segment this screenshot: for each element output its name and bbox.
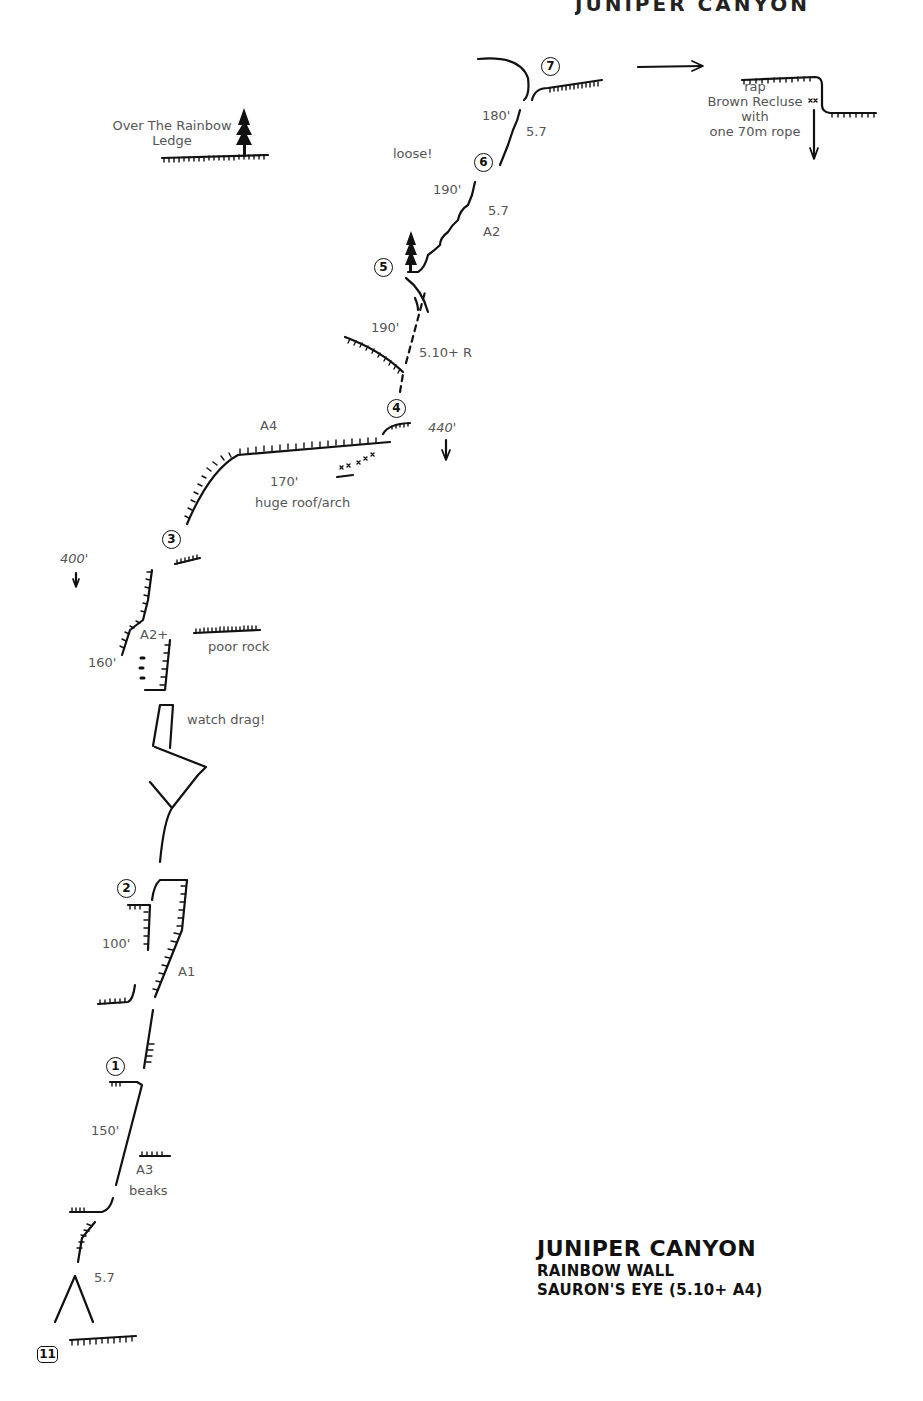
pitch2-grade: A1 bbox=[178, 964, 195, 979]
belay-station-1: 1 bbox=[106, 1057, 125, 1076]
height-400-label: 400' bbox=[60, 551, 88, 566]
pitch5-length: 190' bbox=[371, 320, 399, 335]
ledge-name-line1: Over The Rainbow bbox=[112, 118, 232, 133]
area-title: JUNIPER CANYON bbox=[537, 1236, 763, 1262]
pitch1-length: 150' bbox=[91, 1123, 119, 1138]
ledge-name-line2: Ledge bbox=[112, 133, 232, 148]
pitch1-note: beaks bbox=[129, 1183, 168, 1198]
bolt-ladder bbox=[340, 453, 374, 469]
arrow-right-icon bbox=[638, 61, 703, 71]
belay-station-5: 5 bbox=[374, 258, 393, 277]
y-crack bbox=[150, 747, 206, 862]
arrow-down-icon bbox=[442, 440, 450, 460]
pitch4-note: huge roof/arch bbox=[255, 495, 350, 510]
height-440-label: 440' bbox=[428, 420, 456, 435]
tree-icon bbox=[236, 108, 252, 157]
rappel-note-line2: Brown Recluse bbox=[700, 94, 810, 109]
pitch6-aid: A2 bbox=[483, 224, 500, 239]
arrow-down-icon bbox=[810, 110, 818, 159]
start-peak bbox=[55, 1276, 93, 1322]
pitch7-grade: 5.7 bbox=[526, 124, 547, 139]
page-number: 11 bbox=[37, 1346, 58, 1363]
rappel-note-line1: rap bbox=[700, 79, 810, 94]
pitch7-length: 180' bbox=[482, 108, 510, 123]
pitch1-grade: A3 bbox=[136, 1162, 153, 1177]
pitch3-length: 160' bbox=[88, 655, 116, 670]
pitch3-note-poor-rock: poor rock bbox=[208, 639, 269, 654]
pitch4-length: 170' bbox=[270, 474, 298, 489]
pitch6-grade: 5.7 bbox=[488, 203, 509, 218]
belay-station-6: 6 bbox=[474, 153, 493, 172]
route-title: SAURON'S EYE (5.10+ A4) bbox=[537, 1281, 763, 1300]
tree-icon bbox=[405, 231, 417, 273]
ledge-name: Over The Rainbow Ledge bbox=[112, 118, 232, 148]
arrow-down-icon bbox=[73, 573, 79, 587]
pitch3-grade: A2+ bbox=[140, 627, 168, 642]
pitch6-length: 190' bbox=[433, 182, 461, 197]
pitch4-grade: A4 bbox=[260, 418, 277, 433]
belay-station-3: 3 bbox=[162, 530, 181, 549]
bolt-anchor-icon bbox=[809, 99, 817, 102]
route-title-block: JUNIPER CANYON RAINBOW WALL SAURON'S EYE… bbox=[537, 1236, 763, 1300]
pitch6-note: loose! bbox=[393, 146, 433, 161]
wall-title: RAINBOW WALL bbox=[537, 1262, 763, 1281]
base-ledge bbox=[70, 1336, 136, 1345]
pitch5-grade: 5.10+ R bbox=[419, 345, 472, 360]
pitch2-length: 100' bbox=[102, 936, 130, 951]
start-grade-label: 5.7 bbox=[94, 1270, 115, 1285]
pitch3-note-watch-drag: watch drag! bbox=[187, 712, 265, 727]
belay-station-2: 2 bbox=[117, 879, 136, 898]
rappel-note: rap Brown Recluse with one 70m rope bbox=[700, 79, 810, 139]
rappel-note-line3: with bbox=[700, 109, 810, 124]
belay-station-7: 7 bbox=[541, 57, 560, 76]
rappel-note-line4: one 70m rope bbox=[700, 124, 810, 139]
belay-station-4: 4 bbox=[387, 399, 406, 418]
